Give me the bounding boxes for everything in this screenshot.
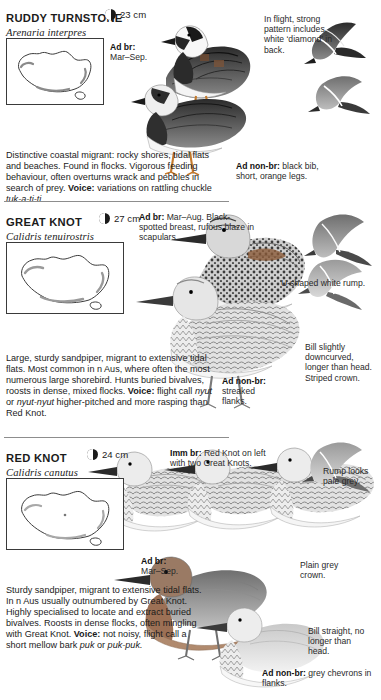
- callout-text: Rump looks pale grey.: [323, 466, 368, 486]
- scientific-name: Calidris canutus: [6, 467, 78, 478]
- callout-great-knot-rump: U-shaped white rump.: [281, 278, 379, 288]
- callout-ruddy-ad-br: Ad br: Mar–Sep.: [110, 42, 156, 62]
- australia-map-shape: [7, 243, 121, 311]
- size-label: 27 cm: [114, 213, 140, 224]
- callout-red-knot-ad-br: Ad br: Mar–Sep.: [141, 556, 187, 576]
- callout-label: Ad non-br:: [236, 161, 280, 171]
- callout-label: Ad non-br:: [262, 668, 306, 678]
- callout-ruddy-in-flight: In flight, strong pattern includes white…: [264, 14, 336, 55]
- size-indicator-great-knot: 27 cm: [99, 213, 140, 224]
- callout-text: Mar–Sep.: [110, 52, 147, 62]
- callout-great-knot-bill: Bill slightly downcurved, longer than he…: [305, 342, 379, 383]
- callout-ruddy-ad-non-br: Ad non-br: black bib, short, orange legs…: [236, 161, 340, 181]
- callout-text: Bill slightly downcurved, longer than he…: [305, 342, 372, 383]
- australia-map-shape: [7, 479, 121, 547]
- callout-great-knot-ad-br: Ad br: Mar–Aug. Black-spotted breast, ru…: [139, 212, 257, 243]
- common-name: RED KNOT: [6, 452, 67, 464]
- callout-text: Bill straight, no longer than head.: [308, 626, 364, 656]
- callout-text: In flight, strong pattern includes white…: [264, 14, 332, 55]
- callout-red-knot-rump: Rump looks pale grey.: [323, 466, 381, 486]
- callout-red-knot-bill: Bill straight, no longer than head.: [308, 626, 370, 657]
- callout-text: U-shaped white rump.: [281, 278, 365, 288]
- size-label: 24 cm: [102, 449, 128, 460]
- species-block-ruddy-turnstone: RUDDY TURNSTONE Arenaria interpres 23 cm…: [0, 0, 381, 202]
- callout-text-inner: Mar–Sep.: [141, 566, 178, 576]
- voice-label: Voice:: [74, 629, 101, 639]
- section-divider: [4, 437, 229, 438]
- description-great-knot: Large, sturdy sandpiper, migrant to exte…: [6, 353, 218, 420]
- species-block-red-knot: RED KNOT Calidris canutus 24 cm Imm br: …: [0, 442, 381, 700]
- section-divider: [4, 201, 229, 202]
- callout-red-knot-crown: Plain grey crown.: [300, 560, 356, 580]
- voice-transcription: tuk-a-ti-ti.: [6, 194, 44, 204]
- callout-text: Mar–Sep.: [141, 566, 178, 576]
- species-block-great-knot: GREAT KNOT Calidris tenuirostris 27 cm A…: [0, 206, 381, 438]
- voice-transcription-2: puk-puk.: [108, 640, 143, 650]
- species-header-red-knot: RED KNOT Calidris canutus: [6, 448, 78, 478]
- voice-sep: or: [6, 397, 17, 407]
- description-red-knot: Sturdy sandpiper, migrant to extensive t…: [6, 585, 202, 652]
- common-name: GREAT KNOT: [6, 216, 82, 228]
- half-circle-size-icon: [105, 9, 116, 20]
- australia-map-shape: [7, 39, 101, 102]
- description-ruddy-turnstone: Distinctive coastal migrant: rocky shore…: [6, 150, 224, 205]
- callout-text: streaked flanks.: [222, 386, 255, 406]
- scientific-name: Calidris tenuirostris: [6, 231, 94, 242]
- callout-label: Ad br:: [110, 42, 135, 52]
- callout-red-knot-ad-non-br: Ad non-br: grey chevrons in flanks.: [262, 668, 372, 688]
- voice-sep: or: [94, 640, 107, 650]
- voice-transcription-2: nyut-nyut: [17, 397, 54, 407]
- size-indicator-red-knot: 24 cm: [87, 449, 128, 460]
- distribution-map-ruddy-turnstone: [6, 38, 104, 105]
- callout-label: Ad br:: [139, 212, 164, 222]
- distribution-map-red-knot: [6, 478, 124, 550]
- callout-red-knot-imm-br: Imm br: Red Knot on left with two Great …: [170, 448, 280, 468]
- voice-transcription: nyut: [195, 386, 212, 396]
- callout-label: Ad non-br:: [222, 376, 266, 386]
- distribution-map-great-knot: [6, 242, 124, 314]
- voice-text: variations on rattling chuckle: [95, 183, 212, 193]
- voice-text: flight call: [154, 386, 194, 396]
- species-header-great-knot: GREAT KNOT Calidris tenuirostris: [6, 212, 94, 242]
- size-label: 23 cm: [120, 9, 146, 20]
- voice-label: Voice:: [68, 183, 95, 193]
- half-circle-size-icon: [99, 213, 110, 224]
- callout-great-knot-ad-non-br: Ad non-br: streaked flanks.: [222, 376, 280, 407]
- scientific-name: Arenaria interpres: [6, 27, 123, 38]
- callout-label: Ad br:: [141, 556, 166, 566]
- field-guide-page: RUDDY TURNSTONE Arenaria interpres 23 cm…: [0, 0, 381, 700]
- half-circle-size-icon: [87, 449, 98, 460]
- callout-text: Plain grey crown.: [300, 560, 338, 580]
- voice-transcription: puk: [80, 640, 95, 650]
- voice-label: Voice:: [128, 386, 155, 396]
- callout-label: Imm br:: [170, 448, 202, 458]
- size-indicator-ruddy-turnstone: 23 cm: [105, 9, 146, 20]
